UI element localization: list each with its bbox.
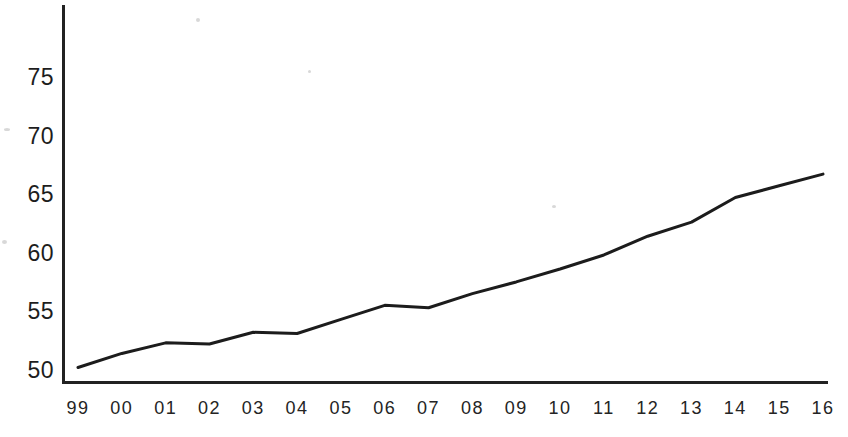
scan-speck	[308, 70, 311, 73]
line-chart: 757065605550 990001020304050607080910111…	[0, 0, 848, 437]
data-series-line	[78, 174, 823, 367]
scan-speck	[196, 18, 200, 22]
plot-area	[0, 0, 848, 437]
scan-speck	[2, 240, 7, 244]
scan-speck	[552, 205, 556, 208]
scan-speck	[4, 128, 10, 131]
